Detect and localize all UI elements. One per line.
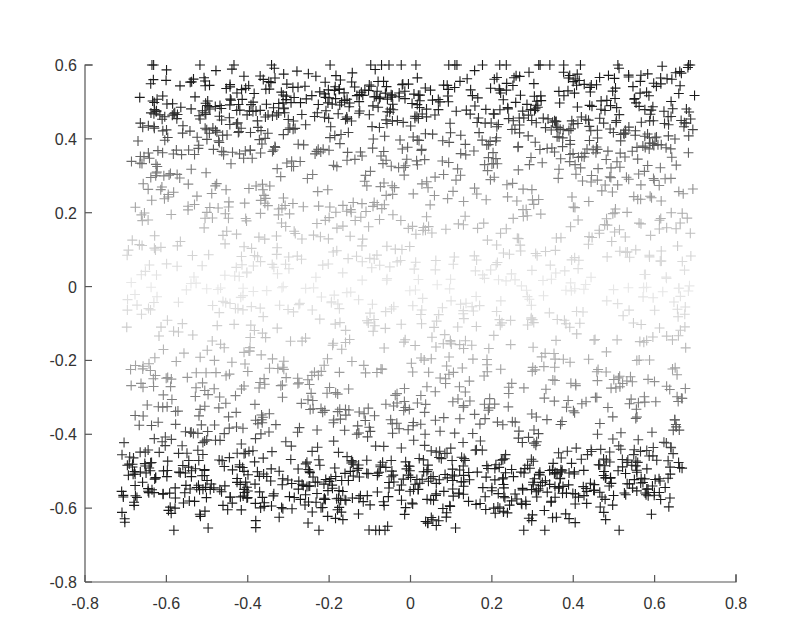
plus-marker-icon (132, 300, 142, 310)
plus-marker-icon (681, 343, 691, 353)
plus-marker-icon (617, 454, 627, 464)
plus-marker-icon (334, 447, 344, 457)
plus-marker-icon (260, 198, 270, 208)
plus-marker-icon (417, 319, 427, 329)
plus-marker-icon (489, 74, 499, 84)
plus-marker-icon (236, 505, 246, 515)
plus-marker-icon (414, 454, 424, 464)
plus-marker-icon (390, 244, 400, 254)
plus-marker-icon (311, 272, 321, 282)
plus-marker-icon (491, 260, 501, 270)
plus-marker-icon (215, 392, 225, 402)
plus-marker-icon (550, 245, 560, 255)
plus-marker-icon (508, 116, 518, 126)
plus-marker-icon (255, 105, 265, 115)
plus-marker-icon (492, 417, 502, 427)
plus-marker-icon (460, 387, 470, 397)
plus-marker-icon (338, 221, 348, 231)
plus-marker-icon (323, 185, 333, 195)
plus-marker-icon (400, 161, 410, 171)
plus-marker-icon (666, 96, 676, 106)
plus-marker-icon (329, 436, 339, 446)
plus-marker-icon (149, 243, 159, 253)
plus-marker-icon (573, 264, 583, 274)
plus-marker-icon (610, 227, 620, 237)
plus-marker-icon (446, 296, 456, 306)
plus-marker-icon (582, 144, 592, 154)
plus-marker-icon (632, 412, 642, 422)
plus-marker-icon (248, 261, 258, 271)
plus-marker-icon (622, 207, 632, 217)
plus-marker-icon (357, 275, 367, 285)
plus-marker-icon (354, 428, 364, 438)
plus-marker-icon (278, 193, 288, 203)
plus-marker-icon (515, 90, 525, 100)
plus-marker-icon (465, 475, 475, 485)
plus-marker-icon (606, 478, 616, 488)
plus-marker-icon (390, 390, 400, 400)
plus-marker-icon (408, 367, 418, 377)
plus-marker-icon (294, 378, 304, 388)
plus-marker-icon (122, 460, 132, 470)
plus-marker-icon (642, 464, 652, 474)
plus-marker-icon (429, 191, 439, 201)
plus-marker-icon (450, 60, 460, 70)
plus-marker-icon (277, 392, 287, 402)
plus-marker-icon (672, 370, 682, 380)
plus-marker-icon (468, 354, 478, 364)
plus-marker-icon (226, 159, 236, 169)
plus-marker-icon (354, 295, 364, 305)
plus-marker-icon (271, 231, 281, 241)
plus-marker-icon (130, 289, 140, 299)
plus-marker-icon (191, 368, 201, 378)
plus-marker-icon (666, 442, 676, 452)
plus-marker-icon (330, 319, 340, 329)
plus-marker-icon (608, 209, 618, 219)
plus-marker-icon (314, 455, 324, 465)
plus-marker-icon (448, 259, 458, 269)
plus-marker-icon (338, 515, 348, 525)
plus-marker-icon (328, 338, 338, 348)
plus-marker-icon (164, 170, 174, 180)
plus-marker-icon (468, 306, 478, 316)
plus-marker-icon (592, 376, 602, 386)
plus-marker-icon (213, 285, 223, 295)
plus-marker-icon (542, 487, 552, 497)
plus-marker-icon (278, 282, 288, 292)
plus-marker-icon (606, 383, 616, 393)
plus-marker-icon (566, 124, 576, 134)
plus-marker-icon (238, 291, 248, 301)
plus-marker-icon (645, 355, 655, 365)
plus-marker-icon (126, 277, 136, 287)
plus-marker-icon (512, 494, 522, 504)
plus-marker-icon (448, 367, 458, 377)
plus-marker-icon (325, 60, 335, 70)
plus-marker-icon (279, 69, 289, 79)
plus-marker-icon (656, 213, 666, 223)
plus-marker-icon (661, 438, 671, 448)
plus-marker-icon (236, 292, 246, 302)
plus-marker-icon (303, 69, 313, 79)
plus-marker-icon (294, 423, 304, 433)
plus-marker-icon (535, 144, 545, 154)
plus-marker-icon (538, 113, 548, 123)
plus-marker-icon (546, 497, 556, 507)
plus-marker-icon (435, 426, 445, 436)
plus-marker-icon (298, 202, 308, 212)
plus-marker-icon (674, 283, 684, 293)
plus-marker-icon (671, 224, 681, 234)
plus-marker-icon (584, 196, 594, 206)
plus-marker-icon (656, 196, 666, 206)
plus-marker-icon (334, 304, 344, 314)
plus-marker-icon (554, 448, 564, 458)
plus-marker-icon (440, 330, 450, 340)
plus-marker-icon (464, 376, 474, 386)
plus-marker-icon (509, 73, 519, 83)
plus-marker-icon (390, 183, 400, 193)
plus-marker-icon (286, 454, 296, 464)
plus-marker-icon (485, 394, 495, 404)
plus-marker-icon (248, 97, 258, 107)
plus-marker-icon (246, 128, 256, 138)
plus-marker-icon (315, 460, 325, 470)
plus-marker-icon (170, 483, 180, 493)
